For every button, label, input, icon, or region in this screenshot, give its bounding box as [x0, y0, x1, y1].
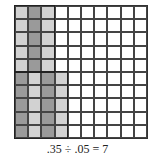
grid-cell	[68, 112, 81, 125]
grid-cell	[94, 19, 107, 32]
grid-cell	[28, 32, 41, 45]
grid-cell	[81, 112, 94, 125]
grid-cell	[134, 85, 147, 98]
grid-cell	[68, 6, 81, 19]
grid-cell	[15, 46, 28, 59]
grid-cell	[134, 32, 147, 45]
grid-cell	[107, 72, 120, 85]
grid-cell	[81, 59, 94, 72]
grid-cell	[68, 59, 81, 72]
grid-cell	[107, 46, 120, 59]
grid-cell	[15, 19, 28, 32]
grid-cell	[94, 6, 107, 19]
grid-cell	[15, 112, 28, 125]
grid-cell	[28, 6, 41, 19]
grid-cell	[121, 6, 134, 19]
grid-cell	[28, 46, 41, 59]
grid-cell	[28, 59, 41, 72]
grid-cell	[134, 19, 147, 32]
grid-cell	[94, 72, 107, 85]
grid-cell	[28, 85, 41, 98]
grid-cell	[121, 19, 134, 32]
grid-cell	[134, 59, 147, 72]
grid-cell	[121, 46, 134, 59]
grid-cell	[94, 112, 107, 125]
grid-cell	[81, 19, 94, 32]
grid-cell	[28, 98, 41, 111]
grid-cell	[94, 85, 107, 98]
grid-cell	[134, 125, 147, 138]
grid-cell	[41, 98, 54, 111]
grid-cell	[41, 19, 54, 32]
grid-cell	[55, 125, 68, 138]
grid-cell	[121, 112, 134, 125]
grid-cell	[15, 125, 28, 138]
grid-cell	[55, 46, 68, 59]
grid-cell	[15, 59, 28, 72]
grid-cell	[134, 46, 147, 59]
grid-cell	[107, 19, 120, 32]
grid-cell	[121, 85, 134, 98]
grid-cell	[68, 125, 81, 138]
grid-cell	[28, 72, 41, 85]
grid-cell	[107, 32, 120, 45]
grid-cell	[94, 59, 107, 72]
grid-cell	[81, 85, 94, 98]
grid-cell	[107, 85, 120, 98]
grid-cell	[107, 6, 120, 19]
grid-cell	[107, 98, 120, 111]
grid-cell	[134, 98, 147, 111]
grid-cell	[121, 72, 134, 85]
grid-cell	[41, 32, 54, 45]
grid-cell	[81, 98, 94, 111]
hundredths-grid	[14, 5, 148, 139]
grid-cell	[41, 6, 54, 19]
grid-cell	[94, 46, 107, 59]
grid-cell	[134, 72, 147, 85]
grid-cell	[94, 125, 107, 138]
grid-cell	[15, 6, 28, 19]
grid-cell	[15, 72, 28, 85]
grid-cell	[81, 6, 94, 19]
grid-cell	[55, 59, 68, 72]
grid-cell	[107, 112, 120, 125]
grid-cell	[121, 125, 134, 138]
grid-cell	[41, 125, 54, 138]
grid-cell	[68, 85, 81, 98]
grid-cell	[41, 112, 54, 125]
grid-cell	[68, 19, 81, 32]
grid-cell	[68, 72, 81, 85]
grid-cell	[94, 32, 107, 45]
grid-cell	[15, 32, 28, 45]
grid-cell	[55, 6, 68, 19]
grid-cell	[68, 46, 81, 59]
grid-cell	[55, 32, 68, 45]
grid-cell	[55, 112, 68, 125]
grid-cell	[15, 85, 28, 98]
grid-cell	[81, 32, 94, 45]
grid-cell	[55, 19, 68, 32]
grid-cell	[41, 85, 54, 98]
grid-cell	[55, 72, 68, 85]
grid-cell	[121, 59, 134, 72]
grid-cell	[107, 59, 120, 72]
grid-cell	[15, 98, 28, 111]
grid-cell	[41, 46, 54, 59]
grid-cell	[134, 112, 147, 125]
grid-cell	[28, 19, 41, 32]
grid-cell	[55, 98, 68, 111]
grid-cell	[68, 32, 81, 45]
grid-cell	[81, 125, 94, 138]
grid-cell	[107, 125, 120, 138]
grid-cell	[121, 98, 134, 111]
grid-cell	[41, 72, 54, 85]
grid-cell	[121, 32, 134, 45]
grid-cell	[81, 72, 94, 85]
grid-cell	[134, 6, 147, 19]
grid-cell	[55, 85, 68, 98]
grid-cell	[28, 112, 41, 125]
equation-caption: .35 ÷ .05 = 7	[0, 142, 155, 157]
grid-cell	[94, 98, 107, 111]
grid-cell	[41, 59, 54, 72]
grid-cell	[68, 98, 81, 111]
